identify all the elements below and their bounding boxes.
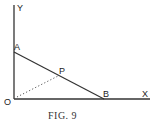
figure-caption: FIG. 9 bbox=[48, 110, 77, 121]
geometry-figure: Y X O A B P FIG. 9 bbox=[0, 0, 159, 129]
segment-op-dotted bbox=[17, 76, 58, 97]
y-axis-label: Y bbox=[17, 3, 23, 13]
point-b-label: B bbox=[103, 89, 109, 99]
x-axis-label: X bbox=[142, 89, 148, 99]
point-a-label: A bbox=[14, 42, 20, 52]
point-p-label: P bbox=[59, 66, 65, 76]
origin-label: O bbox=[4, 97, 11, 107]
